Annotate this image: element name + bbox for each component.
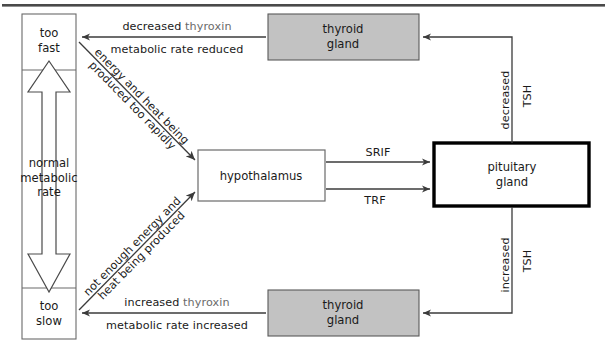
thyroxin-word-top: thyroxin bbox=[185, 20, 232, 33]
thyroid-bottom-line1: thyroid bbox=[323, 298, 364, 313]
thyroid-bottom-line2: gland bbox=[323, 313, 364, 328]
increased-word: increased bbox=[124, 296, 179, 309]
scale-normal-line2: metabolic bbox=[20, 171, 77, 186]
edge-label-srif: SRIF bbox=[365, 146, 390, 159]
scale-too-slow-line2: slow bbox=[36, 314, 62, 329]
pituitary-gland-label: pituitary gland bbox=[488, 160, 537, 189]
scale-too-fast-line2: fast bbox=[38, 41, 60, 56]
edge-label-tsh-bottom: TSH bbox=[521, 250, 534, 273]
scale-too-fast-line1: too bbox=[38, 26, 60, 41]
thyroxin-word-bottom: thyroxin bbox=[183, 296, 230, 309]
edge-label-increased-thyroxin: increased thyroxin bbox=[124, 296, 229, 309]
edge-label-trf: TRF bbox=[364, 194, 385, 207]
scale-normal-line3: rate bbox=[20, 185, 77, 200]
scale-label-too-slow: too slow bbox=[36, 299, 62, 328]
diagram-canvas: too fast normal metabolic rate too slow … bbox=[0, 0, 609, 360]
top-horizontal-rule bbox=[2, 4, 605, 7]
thyroid-gland-bottom-label: thyroid gland bbox=[323, 298, 364, 327]
decreased-word: decreased bbox=[122, 20, 181, 33]
edge-label-decreased-vertical: decreased bbox=[499, 71, 512, 130]
scale-label-too-fast: too fast bbox=[38, 26, 60, 55]
scale-too-slow-line1: too bbox=[36, 299, 62, 314]
thyroid-top-line2: gland bbox=[323, 37, 364, 52]
edge-label-increased-vertical: increased bbox=[499, 237, 512, 292]
thyroid-top-line1: thyroid bbox=[323, 22, 364, 37]
edge-label-tsh-top: TSH bbox=[521, 85, 534, 108]
scale-normal-line1: normal bbox=[20, 156, 77, 171]
scale-label-normal-metabolic-rate: normal metabolic rate bbox=[20, 156, 77, 200]
edge-label-metabolic-rate-increased: metabolic rate increased bbox=[106, 319, 248, 332]
edge-label-decreased-thyroxin: decreased thyroxin bbox=[122, 20, 231, 33]
edge-label-metabolic-rate-reduced: metabolic rate reduced bbox=[111, 43, 244, 56]
hypothalamus-label: hypothalamus bbox=[220, 169, 303, 184]
pituitary-line1: pituitary bbox=[488, 160, 537, 175]
hypothalamus-line1: hypothalamus bbox=[220, 169, 303, 184]
pituitary-line2: gland bbox=[488, 175, 537, 190]
thyroid-gland-top-label: thyroid gland bbox=[323, 22, 364, 51]
